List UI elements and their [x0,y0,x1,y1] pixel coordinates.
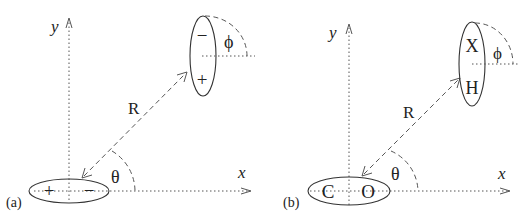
y-axis-label: y [327,23,337,42]
diagram-canvas: y x + − R θ − + ϕ (a) y [0,0,526,218]
separation-vector [84,74,185,176]
panel-tag: (b) [283,195,300,211]
distant-molecule-bottom-charge: + [197,69,208,90]
distant-molecule-top-charge: − [197,25,208,46]
phi-label: ϕ [493,44,502,63]
origin-molecule-left-charge: + [44,180,55,201]
phi-label: ϕ [224,32,233,52]
theta-label: θ [391,164,400,184]
x-axis-label: x [237,163,246,182]
distant-molecule-bottom-atom: H [466,78,479,98]
separation-vector [364,80,458,174]
origin-molecule-right-charge: − [84,180,95,201]
x-axis-arrowhead-icon [500,188,510,194]
separation-label: R [128,99,140,118]
theta-label: θ [111,167,120,187]
y-axis-label: y [49,17,59,36]
panel-b: y x C O R θ X H ϕ (b) [283,22,519,211]
panel-tag: (a) [6,195,22,211]
separation-label: R [403,103,415,122]
x-axis-label: x [497,164,506,183]
origin-molecule-right-atom: O [361,181,375,202]
origin-molecule-left-atom: C [322,181,335,202]
distant-molecule-top-atom: X [466,36,479,56]
panel-a: y x + − R θ − + ϕ (a) [6,16,255,211]
